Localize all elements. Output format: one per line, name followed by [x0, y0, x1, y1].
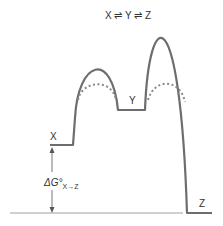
energy-profile-catalyzed-left: [78, 84, 116, 100]
state-x-label: X: [50, 131, 57, 142]
arrow-down-icon: [50, 207, 55, 213]
diagram-title: X ⇌ Y ⇌ Z: [105, 10, 151, 21]
delta-g-main: ΔG°: [43, 177, 63, 188]
arrow-up-icon: [50, 147, 55, 153]
state-z-label: Z: [199, 198, 205, 209]
energy-diagram: X ⇌ Y ⇌ Z X Y Z ΔG°X→Z: [0, 0, 223, 226]
state-y-label: Y: [129, 95, 136, 106]
delta-g-label: ΔG°X→Z: [43, 177, 79, 190]
delta-g-subscript: X→Z: [63, 183, 80, 190]
